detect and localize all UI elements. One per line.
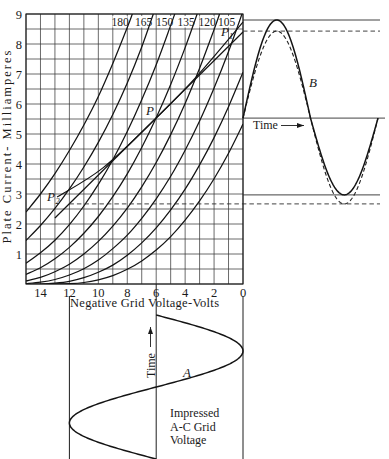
y-tick-label: 7 bbox=[16, 68, 22, 82]
y-tick-label: 9 bbox=[16, 8, 22, 22]
curve-label-120: 120 bbox=[198, 16, 216, 28]
caption-line: Impressed bbox=[170, 406, 219, 420]
y-tick-label: 2 bbox=[16, 218, 22, 232]
point-label-p1-subscript: 1 bbox=[229, 31, 233, 41]
plate-panel-time-label: Time bbox=[253, 118, 278, 132]
curve-label-150: 150 bbox=[156, 16, 174, 28]
y-tick-label: 6 bbox=[16, 98, 22, 112]
y-tick-label: 3 bbox=[16, 188, 22, 202]
y-tick-label: 5 bbox=[16, 128, 22, 142]
y-axis-title: Plate Current- Milliamperes bbox=[0, 50, 14, 243]
point-label-p1: P bbox=[220, 24, 229, 39]
wave-label-a: A bbox=[182, 365, 191, 380]
x-axis-title: Negative Grid Voltage-Volts bbox=[70, 296, 219, 310]
point-label-p2: P bbox=[46, 189, 55, 204]
curve-label-135: 135 bbox=[177, 16, 195, 28]
curve-label-180: 180 bbox=[111, 16, 129, 28]
point-label-p: P bbox=[145, 103, 154, 118]
x-tick-label: 14 bbox=[34, 286, 47, 300]
grid-panel-time-label: Time bbox=[144, 353, 158, 378]
triode-dynamic-characteristic-figure: 1 2 3 4 5 6 7 8 9 14 12 10 8 6 4 2 0 Pla… bbox=[0, 0, 389, 459]
background bbox=[0, 0, 389, 459]
caption-line: Voltage bbox=[170, 433, 206, 447]
y-axis-ticks: 1 2 3 4 5 6 7 8 9 bbox=[16, 8, 23, 262]
x-tick-label: 0 bbox=[240, 286, 246, 300]
y-tick-label: 4 bbox=[16, 158, 23, 172]
y-tick-label: 8 bbox=[16, 38, 22, 52]
wave-label-b: B bbox=[309, 75, 317, 90]
curve-label-165: 165 bbox=[135, 16, 153, 28]
caption-line: A-C Grid bbox=[170, 420, 216, 434]
y-tick-label: 1 bbox=[16, 248, 22, 262]
